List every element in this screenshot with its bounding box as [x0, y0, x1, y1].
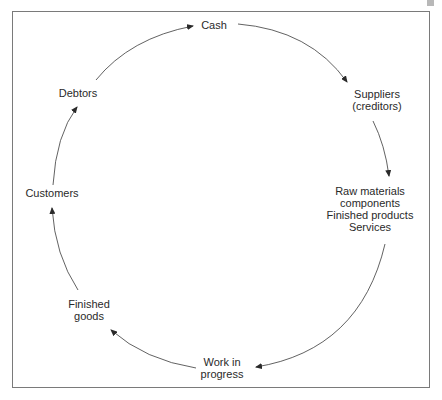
node-wip-line1: Work in — [201, 356, 244, 368]
node-finished-goods-line1: Finished — [68, 298, 110, 310]
node-wip-line2: progress — [201, 368, 244, 380]
arrow-suppliers-to-inputs — [373, 121, 389, 176]
node-inputs-line3: Finished products — [327, 209, 414, 221]
arrow-wip-to-finished-goods — [111, 330, 196, 368]
node-debtors-label: Debtors — [59, 87, 98, 99]
arrow-customers-to-debtors — [53, 107, 77, 185]
node-suppliers: Suppliers (creditors) — [352, 88, 402, 112]
arrow-finished-goods-to-customers — [52, 208, 78, 290]
node-inputs-line2: components — [327, 197, 414, 209]
node-work-in-progress: Work in progress — [201, 356, 244, 380]
node-inputs-line4: Services — [327, 221, 414, 233]
node-cash-label: Cash — [201, 19, 227, 31]
node-suppliers-line1: Suppliers — [352, 88, 402, 100]
node-inputs: Raw materials components Finished produc… — [327, 185, 414, 233]
node-finished-goods: Finished goods — [68, 298, 110, 322]
node-customers: Customers — [25, 187, 78, 199]
node-inputs-line1: Raw materials — [327, 185, 414, 197]
node-finished-goods-line2: goods — [68, 310, 110, 322]
node-debtors: Debtors — [59, 87, 98, 99]
arrow-debtors-to-cash — [96, 26, 193, 80]
node-customers-label: Customers — [25, 187, 78, 199]
arrow-cash-to-suppliers — [238, 24, 347, 82]
node-cash: Cash — [201, 19, 227, 31]
node-suppliers-line2: (creditors) — [352, 100, 402, 112]
arrow-inputs-to-wip — [256, 244, 385, 367]
